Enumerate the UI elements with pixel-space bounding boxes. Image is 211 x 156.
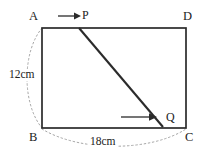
vertex-label-b: B xyxy=(29,131,37,144)
geometry-figure: A D B C P Q 12cm 18cm xyxy=(0,0,211,156)
segment-pq xyxy=(79,28,163,127)
dimension-label-width: 18cm xyxy=(89,136,117,148)
vertex-label-a: A xyxy=(29,10,38,23)
dimension-label-height: 12cm xyxy=(8,69,36,81)
vertex-label-c: C xyxy=(185,131,193,144)
point-label-q: Q xyxy=(166,111,175,123)
arrow-to-p-icon xyxy=(58,13,81,20)
vertex-label-d: D xyxy=(183,10,192,23)
point-label-p: P xyxy=(82,9,89,21)
rectangle-abcd xyxy=(42,28,186,128)
